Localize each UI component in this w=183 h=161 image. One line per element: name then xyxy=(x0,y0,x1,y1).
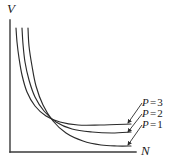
arrow-to-p1-icon xyxy=(128,125,142,145)
curve-p1 xyxy=(28,28,131,146)
curve-p2 xyxy=(22,28,131,133)
curve-p3 xyxy=(16,28,131,125)
arrow-to-p3-icon xyxy=(128,103,142,123)
arrow-to-p2-icon xyxy=(128,114,142,132)
curves-group xyxy=(16,28,131,146)
plot-canvas xyxy=(0,0,183,161)
series-symbol: P xyxy=(142,118,149,130)
isobar-plot-figure: V N P=3 P=2 P=1 xyxy=(0,0,183,161)
x-axis-label: N xyxy=(141,144,150,157)
y-axis-label: V xyxy=(7,2,15,15)
series-value: 1 xyxy=(157,118,163,130)
series-label-p1: P=1 xyxy=(142,119,163,130)
